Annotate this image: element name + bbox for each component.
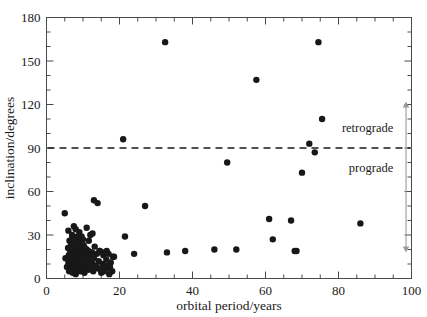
- data-point: [110, 254, 116, 260]
- data-point: [182, 248, 188, 254]
- data-point: [120, 136, 126, 142]
- y-tick-label: 90: [28, 141, 41, 156]
- data-point: [293, 248, 299, 254]
- y-tick-label: 150: [21, 54, 41, 69]
- x-tick-label: 60: [259, 283, 272, 298]
- data-point: [122, 233, 128, 239]
- data-point: [86, 238, 92, 244]
- data-point: [211, 246, 217, 252]
- data-point: [306, 140, 312, 146]
- y-tick-label: 120: [21, 97, 41, 112]
- data-point: [87, 232, 93, 238]
- data-point: [97, 267, 103, 273]
- data-point: [91, 243, 97, 249]
- data-point: [62, 210, 68, 216]
- x-tick-label: 40: [186, 283, 199, 298]
- data-point-group: [62, 39, 364, 277]
- data-point: [253, 77, 259, 83]
- data-point: [89, 249, 95, 255]
- data-point: [224, 159, 230, 165]
- data-point: [76, 229, 82, 235]
- x-tick-label: 80: [332, 283, 345, 298]
- data-point: [94, 200, 100, 206]
- prograde-label: prograde: [349, 161, 394, 175]
- data-point: [299, 169, 305, 175]
- x-tick-label: 0: [43, 283, 50, 298]
- data-point: [80, 236, 86, 242]
- y-tick-label: 60: [28, 184, 41, 199]
- data-point: [233, 246, 239, 252]
- data-point: [107, 264, 113, 270]
- data-point: [288, 217, 294, 223]
- data-point: [131, 251, 137, 257]
- y-axis-title: inclination/degrees: [2, 97, 17, 200]
- data-point: [69, 232, 75, 238]
- data-point: [319, 116, 325, 122]
- y-tick-label: 0: [34, 271, 41, 286]
- plot-canvas: 0204060801000306090120150180orbital peri…: [0, 0, 427, 317]
- data-point: [312, 149, 318, 155]
- x-axis-title: orbital period/years: [176, 298, 281, 313]
- data-point: [315, 39, 321, 45]
- data-point: [164, 249, 170, 255]
- y-tick-label: 30: [28, 228, 41, 243]
- y-tick-label: 180: [21, 10, 41, 25]
- x-tick-label: 20: [113, 283, 126, 298]
- scatter-plot-figure: 0204060801000306090120150180orbital peri…: [0, 0, 427, 317]
- x-tick-label: 100: [402, 283, 422, 298]
- data-point: [357, 220, 363, 226]
- data-point: [270, 236, 276, 242]
- data-point: [162, 39, 168, 45]
- retrograde-label: retrograde: [342, 121, 394, 135]
- data-point: [142, 203, 148, 209]
- data-point: [266, 216, 272, 222]
- data-point: [83, 225, 89, 231]
